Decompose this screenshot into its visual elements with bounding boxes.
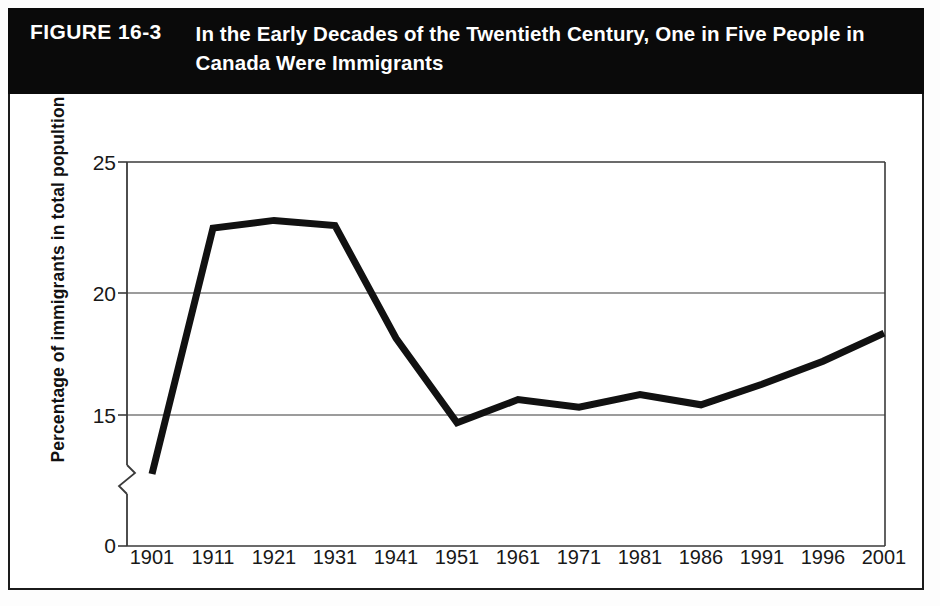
chart-plot-area: Percentage of immigrants in total popult… [8, 94, 924, 590]
figure-root: FIGURE 16-3 In the Early Decades of the … [0, 0, 940, 606]
line-chart-svg [8, 94, 924, 590]
y-axis-line-with-break [119, 162, 135, 546]
figure-number-label: FIGURE 16-3 [30, 19, 162, 44]
figure-title-text: In the Early Decades of the Twentieth Ce… [196, 19, 896, 77]
chart-gridlines [127, 162, 885, 546]
figure-title-band: FIGURE 16-3 In the Early Decades of the … [8, 8, 924, 94]
data-series-line [152, 220, 884, 474]
